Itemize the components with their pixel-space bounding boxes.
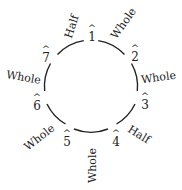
step-label-4-5: Whole	[87, 148, 98, 183]
degree-1: ^ 1	[86, 25, 98, 43]
degree-6: ^ 6	[31, 94, 43, 112]
arc-6-7	[44, 64, 50, 92]
arc-5-6	[47, 104, 66, 124]
arc-2-3	[132, 64, 138, 92]
arc-7-1	[58, 41, 84, 55]
arc-4-5	[74, 129, 108, 132]
scale-circle-diagram: ^ 1 ^ 2 ^ 3 ^ 4 ^ 5 ^ 6 ^ 7 Whole Whole …	[0, 0, 182, 190]
degree-4: ^ 4	[110, 130, 122, 148]
degree-5: ^ 5	[61, 130, 73, 148]
degree-7: ^ 7	[40, 46, 52, 64]
degree-2: ^ 2	[129, 45, 141, 63]
arc-3-4	[117, 104, 136, 124]
arc-1-2	[98, 41, 124, 55]
degree-3: ^ 3	[139, 93, 151, 111]
